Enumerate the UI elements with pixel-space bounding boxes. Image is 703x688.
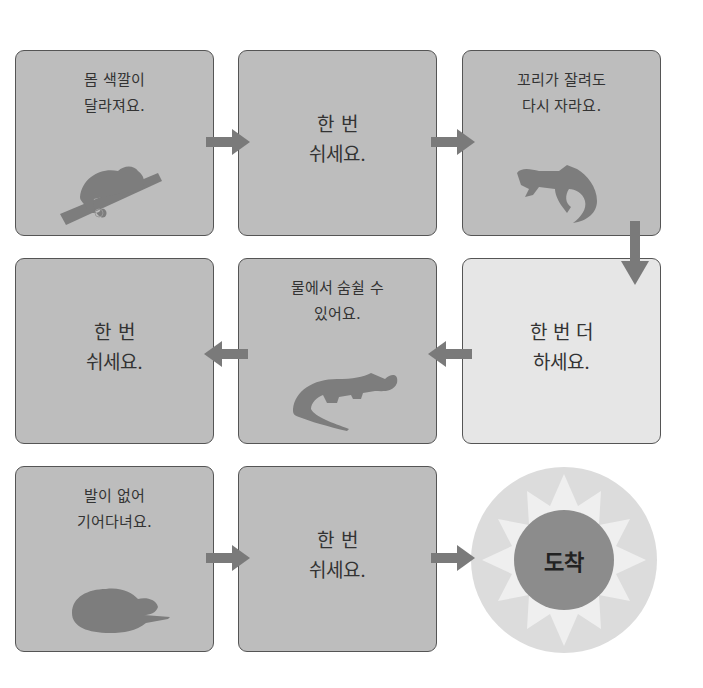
space-text-line2: 쉬세요. xyxy=(16,347,213,377)
space-text-line1: 한 번 xyxy=(239,109,436,139)
space-text-line2: 달라져요. xyxy=(16,93,213,119)
board-space-8: 한 번 쉬세요. xyxy=(238,466,437,652)
space-text: 꼬리가 잘려도 다시 자라요. xyxy=(463,67,660,119)
chameleon-icon xyxy=(58,159,168,227)
space-text-line1: 물에서 숨쉴 수 xyxy=(239,275,436,301)
arrow-left-icon xyxy=(204,340,248,368)
space-text-line2: 있어요. xyxy=(239,301,436,327)
space-text-line2: 다시 자라요. xyxy=(463,93,660,119)
board-space-4: 한 번 쉬세요. xyxy=(15,258,214,444)
space-text: 몸 색깔이 달라져요. xyxy=(16,67,213,119)
arrow-right-icon xyxy=(206,544,250,572)
space-text: 한 번 더 하세요. xyxy=(463,317,660,377)
space-text: 한 번 쉬세요. xyxy=(239,525,436,585)
space-text-line2: 쉬세요. xyxy=(239,555,436,585)
board-space-3: 꼬리가 잘려도 다시 자라요. xyxy=(462,50,661,236)
space-text-line1: 한 번 xyxy=(16,317,213,347)
space-text-line1: 꼬리가 잘려도 xyxy=(463,67,660,93)
space-text-line1: 한 번 xyxy=(239,525,436,555)
arrow-down-icon xyxy=(621,221,649,285)
space-text: 물에서 숨쉴 수 있어요. xyxy=(239,275,436,327)
board-space-5: 물에서 숨쉴 수 있어요. xyxy=(238,258,437,444)
arrow-right-icon xyxy=(431,128,475,156)
arrow-right-icon xyxy=(206,128,250,156)
space-text-line2: 기어다녀요. xyxy=(16,509,213,535)
board-space-7: 발이 없어 기어다녀요. xyxy=(15,466,214,652)
finish-label: 도착 xyxy=(470,544,658,576)
board-space-6: 한 번 더 하세요. xyxy=(462,258,661,444)
board-space-2: 한 번 쉬세요. xyxy=(238,50,437,236)
finish-space: 도착 xyxy=(470,466,658,654)
crocodile-icon xyxy=(289,369,401,435)
space-text-line2: 하세요. xyxy=(463,347,660,377)
space-text-line1: 한 번 더 xyxy=(463,317,660,347)
arrow-right-icon xyxy=(431,544,475,572)
space-text: 한 번 쉬세요. xyxy=(239,109,436,169)
arrow-left-icon xyxy=(428,340,472,368)
space-text-line1: 발이 없어 xyxy=(16,483,213,509)
space-text-line1: 몸 색깔이 xyxy=(16,67,213,93)
lizard-icon xyxy=(515,161,607,225)
space-text-line2: 쉬세요. xyxy=(239,139,436,169)
snake-icon xyxy=(70,583,174,635)
space-text: 발이 없어 기어다녀요. xyxy=(16,483,213,535)
space-text: 한 번 쉬세요. xyxy=(16,317,213,377)
board-space-1: 몸 색깔이 달라져요. xyxy=(15,50,214,236)
